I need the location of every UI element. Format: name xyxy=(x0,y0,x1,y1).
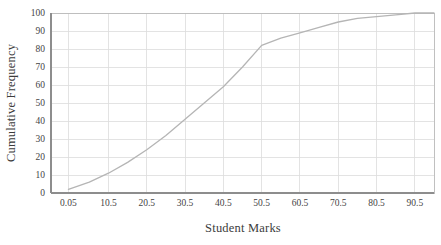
y-axis-tick-labels: 0102030405060708090100 xyxy=(31,8,46,198)
x-tick-label: 70.5 xyxy=(330,198,347,208)
grid-lines xyxy=(51,13,434,193)
x-tick-label: 50.5 xyxy=(253,198,270,208)
y-tick-label: 20 xyxy=(36,152,46,162)
x-tick-label: 0.05 xyxy=(60,198,77,208)
cumulative-frequency-chart: 0.0510.520.530.540.550.560.570.580.590.5… xyxy=(0,0,441,245)
y-tick-label: 40 xyxy=(36,116,46,126)
x-tick-label: 80.5 xyxy=(368,198,385,208)
chart-canvas: 0.0510.520.530.540.550.560.570.580.590.5… xyxy=(0,0,441,245)
y-axis-title: Cumulative Frequency xyxy=(4,43,18,162)
y-tick-label: 30 xyxy=(36,134,46,144)
x-tick-label: 40.5 xyxy=(215,198,232,208)
y-tick-label: 50 xyxy=(36,98,46,108)
x-axis-tick-labels: 0.0510.520.530.540.550.560.570.580.590.5 xyxy=(60,198,423,208)
x-tick-label: 30.5 xyxy=(177,198,194,208)
y-tick-label: 80 xyxy=(36,44,46,54)
y-tick-label: 10 xyxy=(36,170,46,180)
y-tick-label: 0 xyxy=(40,188,45,198)
x-tick-label: 20.5 xyxy=(138,198,155,208)
x-tick-label: 10.5 xyxy=(100,198,117,208)
y-tick-label: 70 xyxy=(36,62,46,72)
x-axis-title: Student Marks xyxy=(205,221,281,235)
y-tick-label: 60 xyxy=(36,80,46,90)
series-line-1 xyxy=(68,13,434,189)
series-layer xyxy=(68,13,434,189)
y-tick-label: 100 xyxy=(31,8,46,18)
x-tick-label: 60.5 xyxy=(292,198,309,208)
y-tick-label: 90 xyxy=(36,26,46,36)
x-tick-label: 90.5 xyxy=(407,198,424,208)
